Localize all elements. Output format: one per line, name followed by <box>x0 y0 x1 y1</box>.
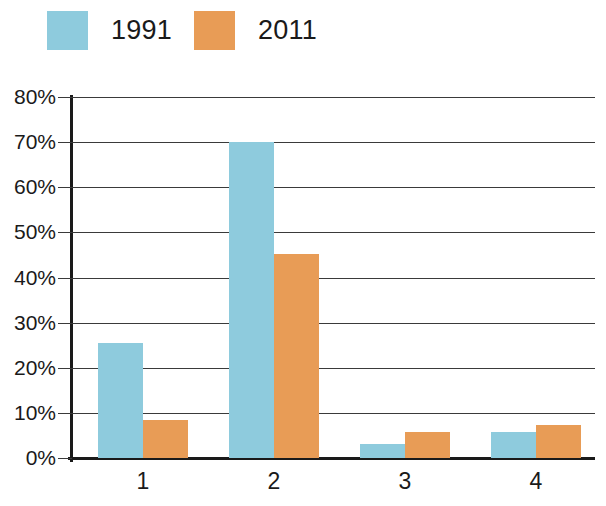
y-tick-mark <box>58 368 72 369</box>
x-tick-label-4: 4 <box>490 466 582 496</box>
x-tick-label-2: 2 <box>228 466 320 496</box>
y-tick-label: 60% <box>0 176 56 197</box>
y-tick-mark <box>58 142 72 143</box>
y-axis-labels: 0%10%20%30%40%50%60%70%80% <box>0 0 56 506</box>
bar-series-container <box>72 97 595 458</box>
y-tick-label: 30% <box>0 312 56 333</box>
y-tick-label: 50% <box>0 221 56 242</box>
y-tick-label: 70% <box>0 131 56 152</box>
bar-1991-cat-2 <box>229 142 274 458</box>
bar-chart: 0%10%20%30%40%50%60%70%80% 1234 <box>0 0 606 506</box>
y-tick-mark <box>58 413 72 414</box>
y-tick-mark <box>58 278 72 279</box>
bar-1991-cat-3 <box>360 444 405 458</box>
bar-1991-cat-1 <box>98 343 143 458</box>
y-tick-mark <box>58 187 72 188</box>
x-tick-label-3: 3 <box>359 466 451 496</box>
y-tick-label: 80% <box>0 86 56 107</box>
x-axis-labels: 1234 <box>72 466 595 506</box>
y-tick-mark <box>58 458 72 459</box>
bar-2011-cat-3 <box>405 432 450 458</box>
y-tick-label: 40% <box>0 267 56 288</box>
bar-2011-cat-4 <box>536 425 581 458</box>
bar-2011-cat-1 <box>143 420 188 458</box>
y-tick-mark <box>58 232 72 233</box>
bar-2011-cat-2 <box>274 254 319 458</box>
bar-1991-cat-4 <box>491 432 536 458</box>
x-tick-label-1: 1 <box>97 466 189 496</box>
y-tick-label: 10% <box>0 402 56 423</box>
y-tick-label: 0% <box>0 447 56 468</box>
plot-area <box>72 97 595 458</box>
y-tick-mark <box>58 97 72 98</box>
y-tick-label: 20% <box>0 357 56 378</box>
y-tick-mark <box>58 323 72 324</box>
